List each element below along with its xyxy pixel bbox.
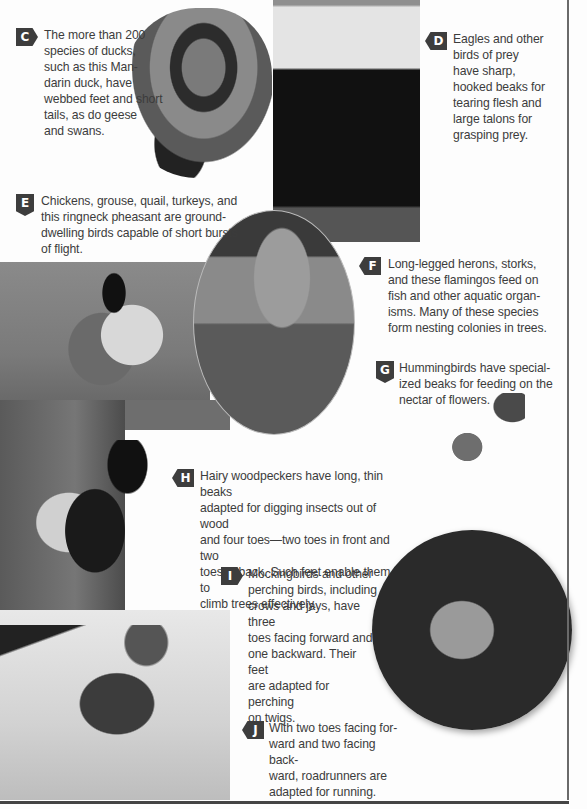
pheasant-bird-shape <box>60 265 180 405</box>
caption-mockingbirds: Mockingbirds and other perching birds, i… <box>248 566 378 726</box>
caption-ducks: The more than 200 species of ducks, such… <box>44 27 174 139</box>
roadrunner-photo <box>0 625 195 800</box>
label-badge-f: F <box>359 257 381 275</box>
label-badge-j: J <box>242 721 264 739</box>
label-badge-d: D <box>425 32 447 50</box>
caption-eagles: Eagles and other birds of prey have shar… <box>453 31 563 143</box>
caption-pheasant: Chickens, grouse, quail, turkeys, and th… <box>41 193 271 257</box>
label-badge-c: C <box>16 28 38 46</box>
bald-eagle-photo <box>273 0 420 242</box>
caption-roadrunners: With two toes facing for- ward and two f… <box>269 720 399 800</box>
label-badge-e: E <box>16 194 34 216</box>
textbook-page: C The more than 200 species of ducks, su… <box>0 0 587 809</box>
caption-hummingbirds: Hummingbirds have special- ized beaks fo… <box>399 360 569 408</box>
mockingbird-circle-photo <box>372 530 572 730</box>
bottom-rule <box>0 801 569 804</box>
label-badge-g: G <box>376 361 394 383</box>
caption-flamingos: Long-legged herons, storks, and these fl… <box>388 256 568 336</box>
hairy-woodpecker-photo <box>30 440 160 605</box>
label-badge-h: H <box>172 469 194 487</box>
